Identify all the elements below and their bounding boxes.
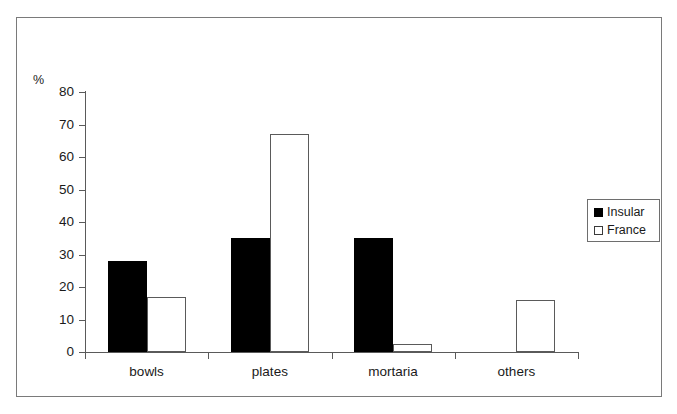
legend-label-france: France xyxy=(607,224,646,237)
y-axis-tick xyxy=(79,287,85,288)
x-axis-tick xyxy=(455,353,456,359)
y-axis-tick-label: 20 xyxy=(30,280,74,294)
y-axis-tick-label-wrap: 70 xyxy=(0,118,74,132)
x-axis-tick xyxy=(578,353,579,359)
y-axis-tick xyxy=(79,320,85,321)
legend-label-insular: Insular xyxy=(607,206,645,219)
x-axis-tick xyxy=(332,353,333,359)
bar-plates-insular xyxy=(231,238,270,352)
y-axis-tick-label-wrap: 0 xyxy=(0,345,74,359)
y-axis-tick xyxy=(79,255,85,256)
legend-item-france: France xyxy=(594,222,659,239)
y-axis-tick-label: 0 xyxy=(30,345,74,359)
y-axis-tick-label-wrap: 40 xyxy=(0,215,74,229)
x-axis-category-label: plates xyxy=(208,365,331,379)
y-axis-tick xyxy=(79,92,85,93)
y-axis-tick-label: 30 xyxy=(30,248,74,262)
y-axis-tick-label: 10 xyxy=(30,313,74,327)
hollow-square-icon xyxy=(594,226,603,235)
x-axis-tick xyxy=(85,353,86,359)
bar-mortaria-insular xyxy=(354,238,393,352)
bar-mortaria-france xyxy=(393,344,432,352)
x-axis-category-label: mortaria xyxy=(332,365,455,379)
y-axis-tick-label: 40 xyxy=(30,215,74,229)
y-axis-tick-label-wrap: 10 xyxy=(0,313,74,327)
legend-item-insular: Insular xyxy=(594,204,659,221)
y-axis-line xyxy=(85,91,86,353)
chart-legend: Insular France xyxy=(587,199,660,242)
y-axis-tick-label: 80 xyxy=(30,85,74,99)
x-axis-tick xyxy=(208,353,209,359)
y-axis-tick-label: 60 xyxy=(30,150,74,164)
y-axis-tick xyxy=(79,222,85,223)
chart-figure: % 01020304050607080 bowlsplatesmortariao… xyxy=(0,0,677,414)
y-axis-tick xyxy=(79,190,85,191)
y-axis-tick xyxy=(79,157,85,158)
y-axis-tick-label-wrap: 30 xyxy=(0,248,74,262)
bar-others-france xyxy=(516,300,555,352)
y-axis-tick-label-wrap: 50 xyxy=(0,183,74,197)
x-axis-category-label: others xyxy=(455,365,578,379)
bar-plates-france xyxy=(270,134,309,352)
bar-bowls-france xyxy=(147,297,186,352)
y-axis-tick-label: 70 xyxy=(30,118,74,132)
y-axis-tick-label-wrap: 80 xyxy=(0,85,74,99)
bar-bowls-insular xyxy=(108,261,147,352)
x-axis-category-label: bowls xyxy=(85,365,208,379)
y-axis-tick-label-wrap: 20 xyxy=(0,280,74,294)
y-axis-tick-label: 50 xyxy=(30,183,74,197)
filled-square-icon xyxy=(594,208,603,217)
y-axis-tick-label-wrap: 60 xyxy=(0,150,74,164)
y-axis-tick xyxy=(79,125,85,126)
